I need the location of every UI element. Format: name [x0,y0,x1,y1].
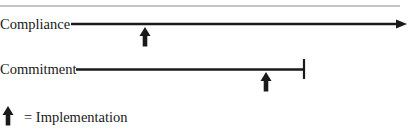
compliance-timeline [71,20,407,29]
commitment-timeline [76,59,304,79]
legend-text: = Implementation [24,109,128,125]
commitment-label: Commitment [0,61,77,77]
arrowhead-icon [396,20,407,29]
compliance-implementation-arrow-icon [140,27,151,47]
compliance-label: Compliance [0,16,70,32]
legend-up-arrow-icon [3,106,14,126]
commitment-implementation-arrow-icon [261,72,272,92]
